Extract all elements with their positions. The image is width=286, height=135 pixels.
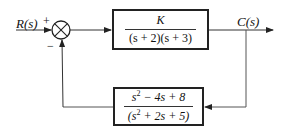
den-rest: + 2s + 5) (140, 109, 189, 123)
summing-junction (52, 21, 70, 39)
feedback-transfer-block: s2 − 4s + 8 (s2 + 2s + 5) (113, 87, 204, 126)
feedback-numerator: s2 − 4s + 8 (128, 90, 190, 106)
feedback-denominator: (s2 + 2s + 5) (124, 107, 194, 123)
feedback-arrow (62, 40, 63, 107)
forward-transfer-function: K (s + 2)(s + 3) (125, 14, 196, 45)
output-label: C(s) (237, 15, 259, 28)
num-rest: − 4s + 8 (140, 90, 185, 104)
minus-sign: − (47, 40, 54, 52)
forward-numerator: K (152, 14, 168, 29)
input-label: R(s) (16, 17, 38, 30)
plus-sign: + (43, 15, 50, 27)
forward-denominator: (s + 2)(s + 3) (125, 30, 196, 45)
forward-transfer-block: K (s + 2)(s + 3) (112, 9, 209, 50)
feedback-transfer-function: s2 − 4s + 8 (s2 + 2s + 5) (124, 90, 194, 123)
block-diagram: R(s) + − C(s) K (s + 2)(s + 3) s2 − 4s +… (0, 0, 286, 135)
